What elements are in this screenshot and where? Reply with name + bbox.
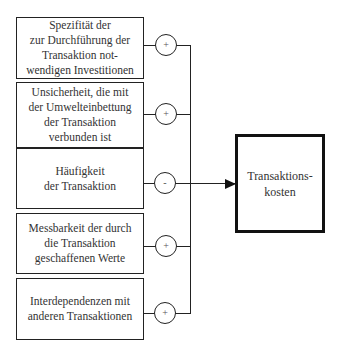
collector-line [190, 45, 191, 314]
target-label: Transaktions- kosten [247, 168, 313, 200]
factor-label: Interdependenzen mit anderen Transaktion… [28, 294, 132, 324]
sign-label: - [163, 178, 166, 188]
factor-label: Häufigkeit der Transaktion [44, 164, 116, 194]
sign-circle-plus: + [154, 302, 176, 324]
factor-label: Spezifität der zur Durchführung der Tran… [26, 18, 134, 78]
target-box-transaction-costs: Transaktions- kosten [235, 134, 325, 233]
sign-label: + [163, 241, 169, 251]
factor-label: Unsicherheit, die mit der Umwelteinbettu… [28, 85, 131, 145]
sign-circle-plus: + [155, 103, 177, 125]
sign-label: + [163, 40, 169, 50]
sign-label: + [163, 109, 169, 119]
factor-box-uncertainty: Unsicherheit, die mit der Umwelteinbettu… [16, 82, 144, 148]
factor-box-frequency: Häufigkeit der Transaktion [16, 148, 144, 209]
factor-box-interdependencies: Interdependenzen mit anderen Transaktion… [16, 278, 144, 340]
factor-box-measurability: Messbarkeit der durch die Transaktion ge… [16, 213, 144, 274]
sign-circle-plus: + [155, 34, 177, 56]
sign-label: + [162, 308, 168, 318]
factor-box-specificity: Spezifität der zur Durchführung der Tran… [16, 17, 144, 79]
factor-label: Messbarkeit der durch die Transaktion ge… [29, 221, 132, 266]
sign-circle-plus: + [155, 235, 177, 257]
sign-circle-minus: - [154, 172, 176, 194]
